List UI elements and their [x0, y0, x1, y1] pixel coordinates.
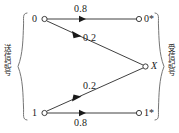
edge-label-0-to-0star: 0.8 [74, 3, 87, 14]
node-label-output-1star: 1* [144, 107, 154, 118]
edge-label-1-to-X: 0.2 [83, 80, 96, 91]
right-group-label: 受信記号 [167, 44, 175, 76]
node-output-1star [136, 110, 141, 115]
node-input-1 [42, 110, 47, 115]
arrowhead-0-to-0star [79, 16, 86, 23]
left-brace-shape [18, 13, 27, 120]
node-label-output-X: X [151, 60, 157, 71]
node-label-output-0star: 0* [144, 13, 154, 24]
arrowhead-0-to-X [72, 31, 82, 38]
node-input-0 [42, 16, 47, 21]
arrowhead-1-to-X [72, 94, 82, 101]
edge-label-0-to-X: 0.2 [83, 32, 96, 43]
edge-label-1-to-1star: 0.8 [74, 117, 87, 128]
node-label-input-0: 0 [32, 13, 37, 24]
node-output-0star [136, 16, 141, 21]
node-output-X [143, 64, 148, 69]
arrowhead-1-to-1star [79, 110, 86, 117]
channel-diagram: 0 1 0* X 1* 0.8 0.2 0.2 0.8 送信記号 受信記号 [0, 0, 179, 133]
edge-0-to-X [47, 21, 143, 65]
left-group-label: 送信記号 [3, 44, 11, 76]
node-label-input-1: 1 [32, 107, 37, 118]
